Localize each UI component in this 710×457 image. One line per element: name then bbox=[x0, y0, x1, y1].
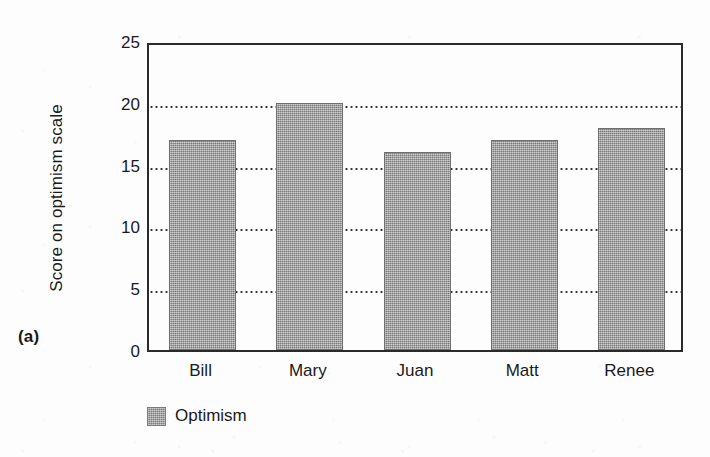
y-tick-0: 0 bbox=[80, 342, 140, 362]
y-tick-10: 10 bbox=[80, 218, 140, 238]
y-axis-title: Score on optimism scale bbox=[47, 78, 67, 318]
bar-juan bbox=[384, 152, 451, 350]
y-tick-25: 25 bbox=[80, 33, 140, 53]
x-tick-matt: Matt bbox=[506, 361, 539, 381]
plot-frame bbox=[147, 43, 683, 352]
legend-label-optimism: Optimism bbox=[175, 406, 247, 426]
legend: Optimism bbox=[147, 406, 247, 426]
x-tick-bill: Bill bbox=[189, 361, 212, 381]
y-tick-5: 5 bbox=[80, 280, 140, 300]
y-tick-15: 15 bbox=[80, 157, 140, 177]
bar-bill bbox=[169, 140, 236, 350]
gridline-20 bbox=[149, 106, 681, 108]
bar-renee bbox=[598, 128, 665, 350]
x-tick-juan: Juan bbox=[397, 361, 434, 381]
legend-swatch-optimism bbox=[147, 407, 166, 426]
figure-panel: (a) Score on optimism scale 0510152025 B… bbox=[0, 0, 710, 457]
bar-matt bbox=[491, 140, 558, 350]
x-tick-mary: Mary bbox=[289, 361, 327, 381]
panel-label: (a) bbox=[18, 327, 39, 347]
bar-mary bbox=[276, 103, 343, 350]
x-tick-renee: Renee bbox=[604, 361, 654, 381]
y-tick-20: 20 bbox=[80, 95, 140, 115]
plot-area bbox=[149, 45, 681, 350]
